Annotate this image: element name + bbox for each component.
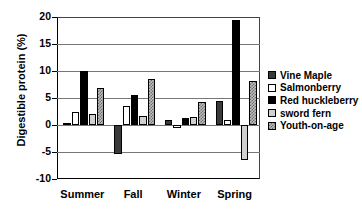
bar-spring-sword-fern	[241, 125, 248, 160]
y-tick-mark	[52, 179, 57, 180]
y-tick-label: 20	[11, 10, 51, 22]
bar-fall-vine-maple	[114, 125, 121, 154]
y-tick-label: 0	[11, 118, 51, 130]
legend-label: Youth-on-age	[280, 120, 344, 131]
chart-container: Digestible protein (%) 20151050-5-10 Sum…	[0, 0, 362, 223]
bar-winter-sword-fern	[190, 117, 197, 125]
bar-fall-salmonberry	[123, 106, 130, 125]
gridline	[57, 125, 260, 126]
y-tick-label: 15	[11, 37, 51, 49]
bar-winter-youth-on-age	[198, 102, 205, 125]
bar-summer-sword-fern	[89, 114, 96, 125]
y-tick-label: 5	[11, 91, 51, 103]
bars-layer	[57, 17, 260, 125]
legend-swatch-icon	[268, 96, 276, 104]
bar-spring-red-huckleberry	[232, 20, 239, 125]
legend-swatch-icon	[268, 122, 276, 130]
legend-swatch-icon	[268, 109, 276, 117]
bar-spring-youth-on-age	[249, 81, 256, 125]
legend-label: Red huckleberry	[280, 95, 358, 106]
gridline	[57, 152, 260, 153]
legend-swatch-icon	[268, 71, 276, 79]
bar-spring-salmonberry	[224, 120, 231, 125]
legend: Vine MapleSalmonberryRed huckleberryswor…	[268, 69, 358, 132]
bar-summer-youth-on-age	[97, 88, 104, 125]
y-tick-label: -10	[11, 172, 51, 184]
bar-summer-vine-maple	[63, 123, 70, 125]
legend-item[interactable]: Red huckleberry	[268, 94, 358, 107]
bar-fall-youth-on-age	[148, 79, 155, 125]
y-tick-label: -5	[11, 145, 51, 157]
bar-spring-vine-maple	[216, 101, 223, 125]
legend-item[interactable]: sword fern	[268, 107, 358, 120]
legend-label: Salmonberry	[280, 82, 341, 93]
legend-item[interactable]: Vine Maple	[268, 69, 358, 82]
bar-winter-red-huckleberry	[182, 118, 189, 125]
bar-fall-sword-fern	[139, 116, 146, 125]
x-tick-label-winter: Winter	[159, 188, 210, 200]
legend-swatch-icon	[268, 84, 276, 92]
legend-item[interactable]: Salmonberry	[268, 82, 358, 95]
bar-winter-salmonberry	[173, 125, 180, 128]
bar-winter-vine-maple	[165, 120, 172, 125]
bar-summer-salmonberry	[72, 112, 79, 125]
x-tick-label-fall: Fall	[108, 188, 159, 200]
bar-fall-red-huckleberry	[131, 95, 138, 125]
x-tick-label-summer: Summer	[57, 188, 108, 200]
legend-label: sword fern	[280, 108, 331, 119]
bar-summer-red-huckleberry	[80, 71, 87, 125]
legend-label: Vine Maple	[280, 70, 332, 81]
x-tick-label-spring: Spring	[209, 188, 260, 200]
y-tick-label: 10	[11, 64, 51, 76]
legend-item[interactable]: Youth-on-age	[268, 119, 358, 132]
